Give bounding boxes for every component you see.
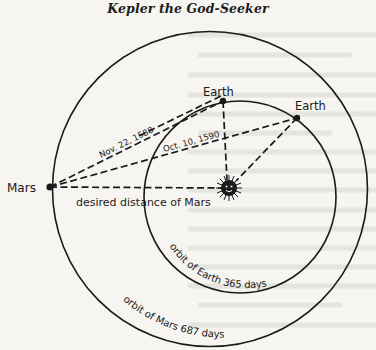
sun-icon <box>216 175 242 201</box>
oct-1590-label: Oct. 10, 1590 <box>162 129 221 154</box>
orbit-of-earth-label: orbit of Earth 365 days <box>168 241 268 290</box>
mars-label: Mars <box>7 181 36 195</box>
earth-2-dot <box>294 115 300 121</box>
nov-1588-label: Nov. 22, 1588 <box>97 124 154 159</box>
desired-distance-line <box>50 187 222 188</box>
sun-to-earth-2-line <box>236 118 297 181</box>
earth-2-label: Earth <box>295 99 326 113</box>
orbit-of-mars-label: orbit of Mars 687 days <box>121 293 224 339</box>
sun-to-earth-1-line <box>223 101 227 180</box>
earth-1-label: Earth <box>203 85 234 99</box>
kepler-orbit-diagram: Mars Earth Earth Nov. 22, 1588 Oct. 10, … <box>0 0 376 350</box>
mars-dot <box>46 183 53 190</box>
orbit-of-mars-circle <box>53 32 368 347</box>
desired-distance-label: desired distance of Mars <box>76 196 211 209</box>
